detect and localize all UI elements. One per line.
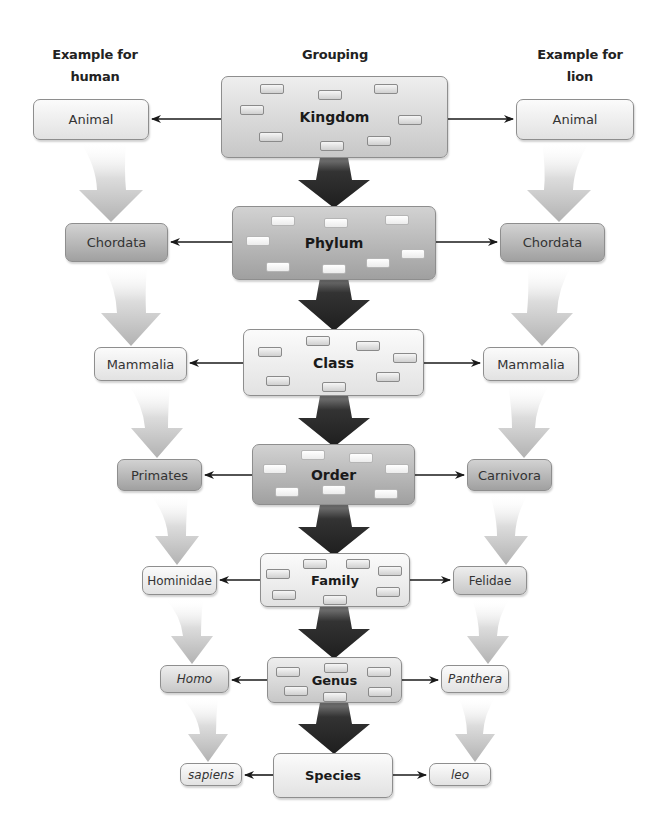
human-genus-box: Homo bbox=[160, 665, 229, 693]
human-kingdom-label: Animal bbox=[69, 112, 114, 127]
human-genus-label: Homo bbox=[177, 672, 212, 686]
lion-family-label: Felidae bbox=[469, 574, 512, 588]
member-chip bbox=[401, 249, 425, 259]
member-chip bbox=[385, 215, 409, 225]
order-label: Order bbox=[311, 467, 356, 483]
member-chip bbox=[266, 262, 290, 272]
family-box: Family bbox=[260, 553, 410, 607]
kingdom-box: Kingdom bbox=[221, 76, 448, 158]
human-class-label: Mammalia bbox=[107, 357, 175, 372]
genus-box: Genus bbox=[267, 657, 402, 703]
member-chip bbox=[356, 341, 380, 351]
member-chip bbox=[374, 84, 398, 94]
arrow-kingdom-phylum bbox=[298, 152, 370, 208]
human-family-label: Hominidae bbox=[147, 574, 212, 588]
member-chip bbox=[260, 84, 284, 94]
member-chip bbox=[322, 264, 346, 274]
human-kingdom-box: Animal bbox=[33, 99, 149, 140]
member-chip bbox=[306, 336, 330, 346]
member-chip bbox=[318, 90, 342, 100]
member-chip bbox=[240, 105, 264, 115]
arrow-genus-species bbox=[298, 697, 370, 754]
member-chip bbox=[346, 559, 370, 569]
human-order-box: Primates bbox=[117, 459, 202, 491]
member-chip bbox=[301, 450, 325, 460]
member-chip bbox=[246, 236, 270, 246]
member-chip bbox=[266, 376, 290, 386]
human-order-label: Primates bbox=[131, 468, 188, 483]
lion-family-box: Felidae bbox=[453, 566, 527, 595]
member-chip bbox=[263, 464, 287, 474]
member-chip bbox=[276, 667, 300, 677]
member-chip bbox=[376, 587, 400, 597]
human-species-box: sapiens bbox=[180, 763, 242, 786]
member-chip bbox=[367, 667, 391, 677]
member-chip bbox=[385, 464, 409, 474]
class-box: Class bbox=[243, 329, 424, 396]
member-chip bbox=[368, 687, 392, 697]
lion-order-box: Carnivora bbox=[467, 459, 552, 491]
lion-class-label: Mammalia bbox=[497, 357, 565, 372]
lion-kingdom-box: Animal bbox=[516, 99, 634, 140]
member-chip bbox=[323, 595, 347, 605]
member-chip bbox=[272, 590, 296, 600]
member-chip bbox=[266, 569, 290, 579]
genus-label: Genus bbox=[312, 673, 358, 688]
member-chip bbox=[323, 692, 347, 702]
order-box: Order bbox=[252, 444, 415, 505]
lion-species-box: leo bbox=[429, 763, 491, 786]
member-chip bbox=[271, 216, 295, 226]
member-chip bbox=[322, 382, 346, 392]
member-chip bbox=[367, 136, 391, 146]
lion-order-label: Carnivora bbox=[478, 468, 541, 483]
member-chip bbox=[324, 663, 348, 673]
member-chip bbox=[322, 485, 346, 495]
human-phylum-box: Chordata bbox=[65, 223, 168, 262]
species-box: Species bbox=[273, 753, 393, 798]
member-chip bbox=[376, 372, 400, 382]
arrow-order-family bbox=[298, 499, 370, 556]
member-chip bbox=[258, 347, 282, 357]
phylum-box: Phylum bbox=[232, 206, 436, 280]
member-chip bbox=[275, 487, 299, 497]
human-species-label: sapiens bbox=[188, 768, 234, 782]
phylum-label: Phylum bbox=[305, 235, 364, 251]
class-label: Class bbox=[313, 355, 354, 371]
member-chip bbox=[259, 132, 283, 142]
arrow-phylum-class bbox=[298, 272, 370, 331]
kingdom-label: Kingdom bbox=[300, 109, 370, 125]
member-chip bbox=[284, 686, 308, 696]
lion-kingdom-label: Animal bbox=[553, 112, 598, 127]
lion-class-box: Mammalia bbox=[483, 347, 579, 381]
member-chip bbox=[398, 115, 422, 125]
member-chip bbox=[374, 489, 398, 499]
lion-genus-box: Panthera bbox=[441, 665, 509, 693]
member-chip bbox=[366, 258, 390, 268]
member-chip bbox=[349, 453, 373, 463]
arrow-family-genus bbox=[298, 601, 370, 659]
member-chip bbox=[303, 559, 327, 569]
species-label: Species bbox=[305, 768, 361, 783]
member-chip bbox=[320, 141, 344, 151]
member-chip bbox=[378, 566, 402, 576]
lion-species-label: leo bbox=[451, 768, 469, 782]
human-class-box: Mammalia bbox=[94, 347, 187, 381]
human-family-box: Hominidae bbox=[142, 566, 217, 595]
member-chip bbox=[393, 353, 417, 363]
family-label: Family bbox=[311, 573, 359, 588]
lion-phylum-label: Chordata bbox=[523, 235, 583, 250]
human-phylum-label: Chordata bbox=[87, 235, 147, 250]
arrow-class-order bbox=[298, 390, 370, 447]
lion-phylum-box: Chordata bbox=[500, 223, 605, 262]
lion-genus-label: Panthera bbox=[448, 672, 502, 686]
member-chip bbox=[324, 218, 348, 228]
